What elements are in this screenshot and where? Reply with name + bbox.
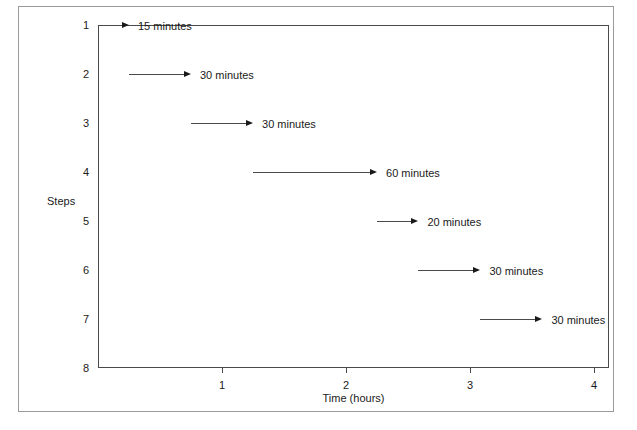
task-duration-label-step-1: 15 minutes	[138, 20, 192, 31]
task-duration-label-step-6: 30 minutes	[489, 265, 543, 276]
arrow-head-icon	[473, 267, 480, 273]
y-tick-label-8: 8	[83, 363, 89, 374]
arrow-head-icon	[246, 120, 253, 126]
x-tick-label-4: 4	[591, 380, 597, 391]
task-arrow-step-6: 30 minutes	[418, 270, 480, 271]
y-tick-label-2: 2	[83, 69, 89, 80]
x-tick-mark-1	[222, 367, 223, 373]
y-tick-label-3: 3	[83, 118, 89, 129]
task-arrow-step-4: 60 minutes	[253, 172, 377, 173]
task-arrow-step-5: 20 minutes	[377, 221, 418, 222]
task-duration-label-step-4: 60 minutes	[386, 167, 440, 178]
task-arrow-step-7: 30 minutes	[480, 319, 542, 320]
y-tick-label-1: 1	[83, 20, 89, 31]
plot-area: 12345678 1234 15 minutes30 minutes30 min…	[98, 25, 609, 368]
x-axis-line	[98, 367, 609, 368]
arrow-head-icon	[122, 22, 129, 28]
y-tick-label-6: 6	[83, 265, 89, 276]
task-duration-label-step-2: 30 minutes	[200, 69, 254, 80]
task-duration-line	[191, 123, 247, 124]
task-duration-label-step-5: 20 minutes	[427, 216, 481, 227]
x-tick-mark-4	[594, 367, 595, 373]
task-duration-line	[418, 270, 474, 271]
y-axis-title: Steps	[47, 196, 75, 207]
x-tick-mark-3	[470, 367, 471, 373]
arrow-head-icon	[370, 169, 377, 175]
figure-frame: Steps Time (hours) 12345678 1234 15 minu…	[18, 6, 614, 412]
plot-border-right	[608, 25, 609, 368]
task-duration-line	[129, 74, 185, 75]
task-arrow-step-2: 30 minutes	[129, 74, 191, 75]
arrow-head-icon	[411, 218, 418, 224]
y-tick-label-7: 7	[83, 314, 89, 325]
y-tick-label-5: 5	[83, 216, 89, 227]
task-duration-line	[98, 25, 123, 26]
x-tick-mark-2	[346, 367, 347, 373]
task-duration-label-step-3: 30 minutes	[262, 118, 316, 129]
x-tick-label-1: 1	[219, 380, 225, 391]
y-axis-line	[98, 25, 99, 368]
x-axis-title: Time (hours)	[98, 393, 609, 404]
task-duration-line	[480, 319, 536, 320]
task-duration-label-step-7: 30 minutes	[551, 314, 605, 325]
arrow-head-icon	[184, 71, 191, 77]
x-tick-label-2: 2	[343, 380, 349, 391]
task-duration-line	[377, 221, 412, 222]
chart-page: Steps Time (hours) 12345678 1234 15 minu…	[0, 0, 637, 430]
task-arrow-step-1: 15 minutes	[98, 25, 129, 26]
x-tick-label-3: 3	[467, 380, 473, 391]
arrow-head-icon	[535, 316, 542, 322]
task-arrow-step-3: 30 minutes	[191, 123, 253, 124]
y-tick-label-4: 4	[83, 167, 89, 178]
task-duration-line	[253, 172, 371, 173]
